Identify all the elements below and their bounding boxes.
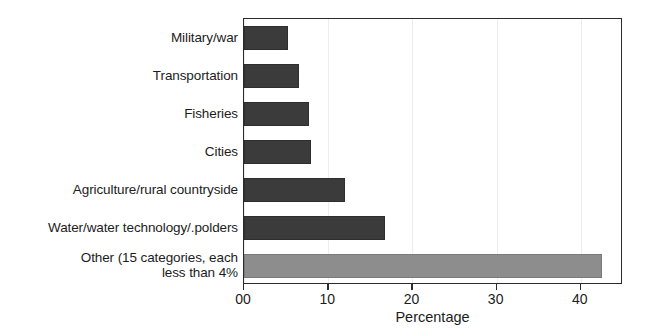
category-label-fisheries: Fisheries (0, 106, 238, 121)
bar-military-war (244, 26, 288, 50)
x-tick-label-10: 10 (319, 291, 335, 307)
bar-transportation (244, 64, 299, 88)
x-tick-mark-30 (496, 284, 497, 290)
bar-other (244, 254, 602, 278)
category-label-other: Other (15 categories, each less than 4% (0, 250, 238, 280)
bar-agriculture-rural-countryside (244, 178, 345, 202)
x-tick-mark-20 (411, 284, 412, 290)
x-tick-label-40: 40 (572, 291, 588, 307)
bar-chart: Military/war Transportation Fisheries Ci… (0, 0, 654, 336)
x-tick-mark-40 (580, 284, 581, 290)
gridline-40 (581, 19, 582, 283)
plot-area (243, 18, 622, 284)
bar-cities (244, 140, 311, 164)
category-label-water-water-technology-polders: Water/water technology/.polders (0, 220, 238, 235)
category-label-military-war: Military/war (0, 30, 238, 45)
category-label-agriculture-rural-countryside: Agriculture/rural countryside (0, 182, 238, 197)
x-tick-mark-0 (243, 284, 244, 290)
category-label-cities: Cities (0, 144, 238, 159)
x-tick-label-0: 00 (235, 291, 251, 307)
bar-water-water-technology-polders (244, 216, 385, 240)
x-tick-label-20: 20 (404, 291, 420, 307)
category-axis-labels: Military/war Transportation Fisheries Ci… (0, 18, 238, 284)
x-axis-title: Percentage (243, 309, 622, 326)
gridline-10 (328, 19, 329, 283)
bar-fisheries (244, 102, 309, 126)
gridline-20 (412, 19, 413, 283)
category-label-transportation: Transportation (0, 68, 238, 83)
x-tick-mark-10 (327, 284, 328, 290)
x-tick-label-30: 30 (488, 291, 504, 307)
gridline-30 (497, 19, 498, 283)
